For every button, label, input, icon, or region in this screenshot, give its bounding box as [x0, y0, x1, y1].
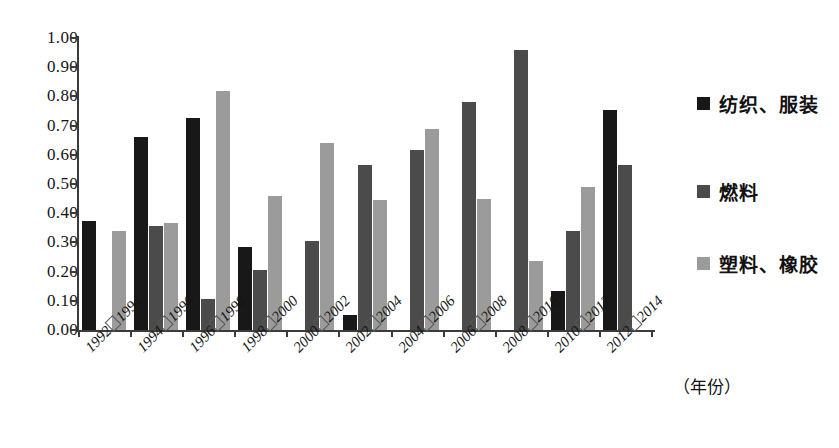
y-axis-tick-label: 0.10 [16, 292, 78, 309]
bar-group [551, 38, 595, 330]
x-axis-tick-mark [338, 330, 340, 337]
y-axis-tick-label: 1.00 [16, 29, 78, 46]
y-axis-tick-mark [70, 154, 78, 156]
legend-swatch-icon [697, 97, 710, 110]
legend-item-label: 燃料 [719, 180, 823, 206]
bar-group [290, 38, 334, 330]
bar [425, 129, 439, 330]
bar-group [343, 38, 387, 330]
bar-group [395, 38, 439, 330]
bar-group [499, 38, 543, 330]
x-axis-title: （年份） [673, 378, 741, 396]
y-axis-tick-label: 0.00 [16, 321, 78, 338]
y-axis-tick-mark [70, 37, 78, 39]
x-axis-tick-mark [234, 330, 236, 337]
bar [618, 165, 632, 330]
legend-swatch-icon [697, 185, 710, 198]
y-axis-tick-mark [70, 241, 78, 243]
bar-group [447, 38, 491, 330]
x-axis-tick-mark [391, 330, 393, 337]
bar-group [134, 38, 178, 330]
x-axis-tick-mark [443, 330, 445, 337]
x-axis-tick-mark [182, 330, 184, 337]
bar [566, 231, 580, 330]
legend-item[interactable]: 塑料、橡胶 [697, 252, 823, 278]
y-axis-tick-label: 0.60 [16, 146, 78, 163]
x-axis-tick-mark [495, 330, 497, 337]
x-axis-tick-mark [599, 330, 601, 337]
y-axis-tick-label: 0.50 [16, 175, 78, 192]
y-axis-tick-mark [70, 66, 78, 68]
plot-area [78, 38, 651, 330]
x-axis-tick-mark [547, 330, 549, 337]
legend-item-label: 纺织、服装 [719, 92, 823, 118]
legend-swatch-icon [697, 257, 710, 270]
x-axis-tick-mark [78, 330, 80, 337]
y-axis-tick-mark [70, 300, 78, 302]
bar-group [238, 38, 282, 330]
y-axis-ticks: 1.000.900.800.700.600.500.400.300.200.10… [0, 0, 78, 448]
bar [149, 226, 163, 330]
bar [462, 102, 476, 330]
bar-group [603, 38, 647, 330]
y-axis-tick-label: 0.20 [16, 263, 78, 280]
x-axis-tick-mark [651, 330, 653, 337]
bar [343, 315, 357, 330]
bar [82, 221, 96, 331]
y-axis-tick-mark [70, 212, 78, 214]
legend-item-label: 塑料、橡胶 [719, 252, 823, 278]
bar-group [186, 38, 230, 330]
y-axis-tick-mark [70, 125, 78, 127]
y-axis-tick-mark [70, 95, 78, 97]
bar [216, 91, 230, 330]
bar-group [82, 38, 126, 330]
x-axis-tick-mark [130, 330, 132, 337]
y-axis-tick-label: 0.40 [16, 204, 78, 221]
bar [410, 150, 424, 330]
y-axis-tick-mark [70, 271, 78, 273]
legend-item[interactable]: 燃料 [697, 180, 823, 206]
bar [358, 165, 372, 330]
bar [514, 50, 528, 330]
bar-chart-figure: 1.000.900.800.700.600.500.400.300.200.10… [0, 0, 839, 448]
y-axis-tick-mark [70, 183, 78, 185]
y-axis-tick-label: 0.80 [16, 87, 78, 104]
y-axis-tick-mark [70, 329, 78, 331]
legend-item[interactable]: 纺织、服装 [697, 92, 823, 118]
y-axis-tick-label: 0.90 [16, 58, 78, 75]
y-axis-tick-label: 0.70 [16, 117, 78, 134]
bar [238, 247, 252, 330]
x-axis-tick-mark [286, 330, 288, 337]
y-axis-tick-label: 0.30 [16, 233, 78, 250]
